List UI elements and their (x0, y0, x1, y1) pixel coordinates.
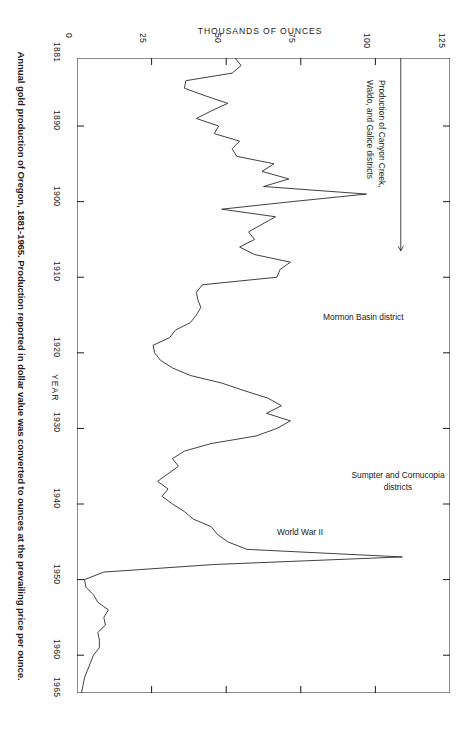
annotation-mormon-basin: Mormon Basin district (323, 312, 404, 324)
data-series (81, 58, 402, 693)
production-line (81, 58, 402, 693)
figure-gold-production: Annual gold production of Oregon, 1881-1… (0, 0, 474, 729)
axes (77, 58, 450, 693)
y-axis-title: YEAR (50, 374, 60, 414)
y-tick-label: 1900 (52, 186, 62, 220)
y-tick-label: 1950 (52, 564, 62, 598)
annotation-leaders (398, 58, 403, 251)
plot-svg (77, 58, 450, 693)
y-tick-label: 1881 (52, 42, 62, 76)
y-tick-label: 1960 (52, 639, 62, 673)
annotation-canyon-creek: Production of Canyon Creek, Waldo, and G… (364, 80, 387, 188)
y-tick-label: 1940 (52, 488, 62, 522)
annotation-world-war-ii: World War II (277, 527, 323, 539)
x-axis-title: THOUSANDS OF OUNCES (150, 26, 370, 36)
y-tick-label: 1965 (52, 677, 62, 711)
x-tick-label: 0 (64, 33, 74, 63)
plot-area (77, 58, 450, 693)
annotation-sumpter-cornucopia: Sumpter and Cornucopia districts (337, 470, 459, 493)
figure-caption: Annual gold production of Oregon, 1881-1… (0, 21, 28, 711)
y-tick-label: 1890 (52, 110, 62, 144)
y-tick-label: 1920 (52, 337, 62, 371)
y-tick-label: 1910 (52, 261, 62, 295)
y-tick-label: 1930 (52, 412, 62, 446)
